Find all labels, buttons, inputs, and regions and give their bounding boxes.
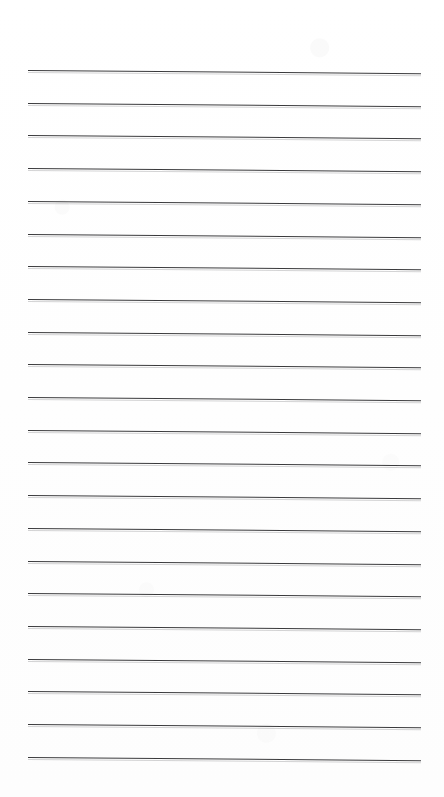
handwriting-area[interactable] bbox=[0, 0, 444, 797]
notepad-page bbox=[0, 0, 444, 797]
